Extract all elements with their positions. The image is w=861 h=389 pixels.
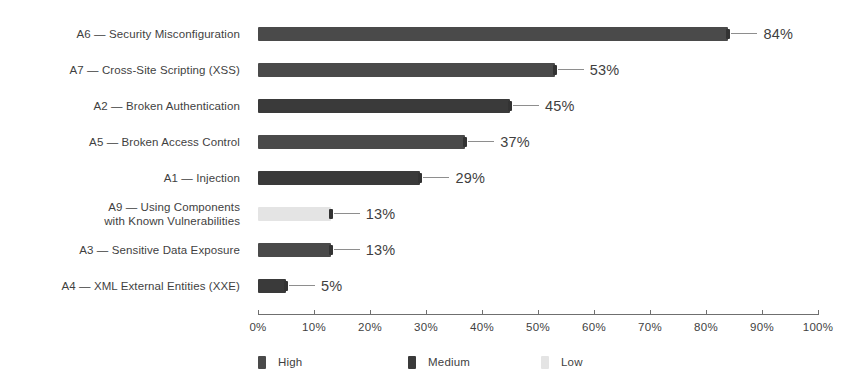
bar[interactable] bbox=[258, 171, 420, 185]
chart-row: A2 — Broken Authentication45% bbox=[0, 88, 861, 124]
legend-swatch-icon bbox=[258, 356, 266, 369]
bar-track: 13% bbox=[258, 232, 818, 268]
value-label: 53% bbox=[590, 61, 620, 79]
axis-tick bbox=[594, 310, 595, 315]
leader-line bbox=[289, 285, 315, 286]
leader-line bbox=[468, 141, 494, 142]
chart-row: A1 — Injection29% bbox=[0, 160, 861, 196]
bar-end-marker bbox=[726, 29, 730, 39]
category-label: A5 — Broken Access Control bbox=[0, 124, 240, 160]
bar[interactable] bbox=[258, 27, 728, 41]
axis-tick-label: 90% bbox=[750, 320, 774, 334]
bar[interactable] bbox=[258, 135, 465, 149]
axis-tick bbox=[314, 310, 315, 315]
leader-line bbox=[334, 213, 360, 214]
axis-tick-label: 50% bbox=[526, 320, 550, 334]
legend-item-high[interactable]: High bbox=[258, 352, 302, 372]
leader-line bbox=[558, 69, 584, 70]
axis-tick-label: 80% bbox=[694, 320, 718, 334]
leader-line bbox=[334, 249, 360, 250]
bar-track: 53% bbox=[258, 52, 818, 88]
axis-tick-label: 100% bbox=[803, 320, 834, 334]
x-axis-line bbox=[258, 314, 818, 315]
bar[interactable] bbox=[258, 63, 555, 77]
axis-tick-label: 60% bbox=[582, 320, 606, 334]
category-label: A9 — Using Components with Known Vulnera… bbox=[0, 196, 240, 232]
bar-track: 37% bbox=[258, 124, 818, 160]
chart-row: A9 — Using Components with Known Vulnera… bbox=[0, 196, 861, 232]
chart-row: A7 — Cross-Site Scripting (XSS)53% bbox=[0, 52, 861, 88]
axis-tick-label: 70% bbox=[638, 320, 662, 334]
bar-track: 84% bbox=[258, 16, 818, 52]
legend-swatch-icon bbox=[541, 356, 549, 369]
category-label: A1 — Injection bbox=[0, 160, 240, 196]
axis-tick-label: 20% bbox=[358, 320, 382, 334]
value-label: 13% bbox=[366, 241, 396, 259]
legend-swatch-icon bbox=[408, 356, 416, 369]
bar-end-marker bbox=[418, 173, 422, 183]
legend-label: Medium bbox=[428, 355, 470, 369]
category-label: A7 — Cross-Site Scripting (XSS) bbox=[0, 52, 240, 88]
horizontal-bar-chart: A6 — Security Misconfiguration84%A7 — Cr… bbox=[0, 0, 861, 389]
value-label: 37% bbox=[500, 133, 530, 151]
value-label: 45% bbox=[545, 97, 575, 115]
bar-track: 45% bbox=[258, 88, 818, 124]
leader-line bbox=[423, 177, 449, 178]
bar-end-marker bbox=[553, 65, 557, 75]
bar[interactable] bbox=[258, 243, 331, 257]
legend-item-medium[interactable]: Medium bbox=[408, 352, 470, 372]
chart-row: A4 — XML External Entities (XXE)5% bbox=[0, 268, 861, 304]
bar-track: 29% bbox=[258, 160, 818, 196]
bar[interactable] bbox=[258, 99, 510, 113]
chart-row: A6 — Security Misconfiguration84% bbox=[0, 16, 861, 52]
category-label: A6 — Security Misconfiguration bbox=[0, 16, 240, 52]
value-label: 29% bbox=[455, 169, 485, 187]
axis-tick-label: 40% bbox=[470, 320, 494, 334]
bar-track: 13% bbox=[258, 196, 818, 232]
axis-tick bbox=[538, 310, 539, 315]
leader-line bbox=[513, 105, 539, 106]
axis-tick bbox=[762, 310, 763, 315]
bar[interactable] bbox=[258, 207, 331, 221]
axis-tick bbox=[370, 310, 371, 315]
axis-tick-label: 10% bbox=[302, 320, 326, 334]
value-label: 84% bbox=[763, 25, 793, 43]
bar-end-marker bbox=[329, 245, 333, 255]
value-label: 13% bbox=[366, 205, 396, 223]
value-label: 5% bbox=[321, 277, 342, 295]
legend-item-low[interactable]: Low bbox=[541, 352, 583, 372]
bar-end-marker bbox=[508, 101, 512, 111]
chart-row: A3 — Sensitive Data Exposure13% bbox=[0, 232, 861, 268]
axis-tick bbox=[818, 310, 819, 315]
axis-tick bbox=[482, 310, 483, 315]
legend-label: High bbox=[278, 355, 302, 369]
category-label: A4 — XML External Entities (XXE) bbox=[0, 268, 240, 304]
axis-tick bbox=[650, 310, 651, 315]
axis-tick bbox=[426, 310, 427, 315]
leader-line bbox=[731, 33, 757, 34]
legend-label: Low bbox=[561, 355, 583, 369]
axis-tick bbox=[706, 310, 707, 315]
axis-tick-label: 0% bbox=[249, 320, 266, 334]
axis-tick-label: 30% bbox=[414, 320, 438, 334]
category-label: A2 — Broken Authentication bbox=[0, 88, 240, 124]
axis-tick bbox=[258, 310, 259, 315]
category-label: A3 — Sensitive Data Exposure bbox=[0, 232, 240, 268]
chart-row: A5 — Broken Access Control37% bbox=[0, 124, 861, 160]
bar[interactable] bbox=[258, 279, 286, 293]
bar-end-marker bbox=[463, 137, 467, 147]
bar-end-marker bbox=[329, 209, 333, 219]
bar-track: 5% bbox=[258, 268, 818, 304]
bar-end-marker bbox=[284, 281, 288, 291]
